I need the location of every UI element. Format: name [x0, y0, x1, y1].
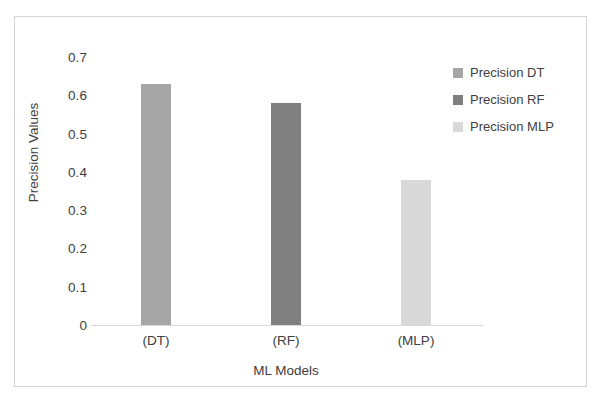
x-axis-tick-label: (MLP) — [398, 333, 435, 348]
bar — [141, 84, 171, 325]
chart-frame: Precision Values 0.70.60.50.40.30.20.10 … — [14, 16, 587, 387]
y-axis-tick-label: 0.7 — [68, 50, 87, 65]
bar — [271, 103, 301, 325]
y-axis-tick-label: 0 — [79, 318, 87, 333]
x-axis-tick-label: (DT) — [143, 333, 170, 348]
y-axis-tick-label: 0.3 — [68, 203, 87, 218]
y-axis-title: Precision Values — [26, 73, 41, 233]
y-axis-tick-label: 0.5 — [68, 126, 87, 141]
bar — [401, 180, 431, 325]
legend-item-label: Precision RF — [470, 92, 544, 107]
legend-item-label: Precision MLP — [470, 119, 554, 134]
legend-swatch-icon — [453, 95, 463, 105]
x-axis-title: ML Models — [91, 363, 481, 378]
x-axis-tick-label: (RF) — [273, 333, 300, 348]
x-axis-tick-labels: (DT)(RF)(MLP) — [91, 333, 481, 355]
chart-legend: Precision DTPrecision RFPrecision MLP — [453, 59, 583, 140]
legend-item[interactable]: Precision RF — [453, 86, 583, 113]
x-axis-line — [91, 325, 483, 326]
y-axis-tick-labels: 0.70.60.50.40.30.20.10 — [57, 57, 87, 325]
legend-item[interactable]: Precision DT — [453, 59, 583, 86]
plot-area — [91, 57, 481, 325]
legend-swatch-icon — [453, 122, 463, 132]
legend-item[interactable]: Precision MLP — [453, 113, 583, 140]
y-axis-tick-label: 0.6 — [68, 88, 87, 103]
y-axis-tick-label: 0.4 — [68, 164, 87, 179]
legend-swatch-icon — [453, 68, 463, 78]
y-axis-tick-label: 0.2 — [68, 241, 87, 256]
y-axis-tick-label: 0.1 — [68, 279, 87, 294]
legend-item-label: Precision DT — [470, 65, 544, 80]
